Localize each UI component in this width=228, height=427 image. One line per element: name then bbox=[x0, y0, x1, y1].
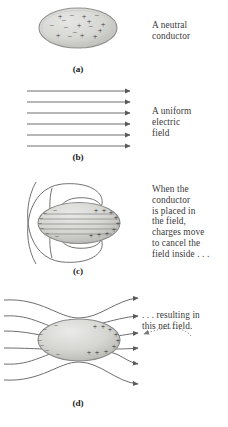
panel-d-caption: . . . resulting in this net field. bbox=[142, 310, 228, 332]
svg-text:+: + bbox=[87, 17, 92, 26]
caption-line: When the bbox=[152, 184, 228, 195]
caption-line: A neutral bbox=[152, 20, 224, 31]
svg-text:+: + bbox=[108, 325, 113, 334]
panel-label-a: (a) bbox=[0, 64, 228, 74]
panel-label-c: (c) bbox=[0, 266, 228, 276]
caption-line: conductor bbox=[152, 31, 224, 42]
svg-text:−: − bbox=[70, 11, 75, 20]
caption-line: charges move bbox=[152, 227, 228, 238]
svg-text:+: + bbox=[102, 206, 107, 215]
svg-text:−: − bbox=[43, 209, 47, 218]
svg-text:−: − bbox=[54, 321, 58, 330]
svg-text:+: + bbox=[116, 336, 121, 345]
caption-line: A uniform bbox=[152, 106, 226, 117]
svg-text:−: − bbox=[95, 11, 100, 20]
svg-text:+: + bbox=[112, 225, 117, 234]
field-line-outer-bottom bbox=[4, 362, 138, 384]
svg-text:+: + bbox=[101, 322, 106, 331]
panel-label-a-text: (a) bbox=[73, 64, 84, 74]
panel-a: + − + − − − + − + + − + + − + − + A neut… bbox=[0, 0, 228, 84]
svg-text:+: + bbox=[87, 348, 92, 357]
panel-label-b: (b) bbox=[0, 152, 228, 162]
panel-d: − − − − − − − + + + + + + + + + bbox=[0, 288, 228, 427]
field-line-outer-top bbox=[4, 298, 138, 318]
svg-text:+: + bbox=[95, 348, 100, 357]
physics-figure-conductor-in-field: + − + − − − + − + + − + + − + − + A neut… bbox=[0, 0, 228, 427]
caption-line: the field, bbox=[152, 216, 228, 227]
caption-line: this net field. bbox=[142, 321, 228, 332]
svg-text:−: − bbox=[73, 28, 78, 37]
caption-line: conductor bbox=[152, 195, 228, 206]
panel-label-d: (d) bbox=[0, 398, 228, 408]
svg-text:+: + bbox=[56, 31, 61, 40]
svg-text:−: − bbox=[56, 350, 60, 359]
caption-line: is placed in bbox=[152, 206, 228, 217]
svg-text:+: + bbox=[105, 229, 110, 238]
caption-line: electric bbox=[152, 117, 226, 128]
svg-text:+: + bbox=[98, 26, 103, 35]
caption-line: field inside . . . bbox=[152, 249, 228, 260]
svg-text:+: + bbox=[89, 231, 94, 240]
svg-text:+: + bbox=[93, 322, 98, 331]
svg-text:−: − bbox=[55, 232, 59, 241]
panel-b: A uniform electric field (b) bbox=[0, 84, 228, 168]
panel-label-b-text: (b) bbox=[72, 152, 83, 162]
panel-a-caption: A neutral conductor bbox=[152, 20, 224, 42]
uniform-field-arrows bbox=[27, 91, 130, 146]
svg-text:−: − bbox=[40, 224, 44, 233]
svg-text:+: + bbox=[80, 31, 85, 40]
svg-text:+: + bbox=[94, 206, 99, 215]
svg-text:+: + bbox=[112, 342, 117, 351]
svg-text:−: − bbox=[45, 229, 49, 238]
panel-label-c-text: (c) bbox=[73, 266, 83, 276]
panel-c-caption: When the conductor is placed in the fiel… bbox=[152, 184, 228, 260]
panel-b-caption: A uniform electric field bbox=[152, 106, 226, 138]
panel-label-d-text: (d) bbox=[72, 398, 83, 408]
caption-line: . . . resulting in bbox=[142, 310, 228, 321]
svg-text:−: − bbox=[50, 21, 55, 30]
svg-text:+: + bbox=[97, 230, 102, 239]
svg-text:−: − bbox=[53, 206, 57, 215]
caption-line: to cancel the bbox=[152, 238, 228, 249]
panel-c: − − − − − − − + + + + + + + + + When the bbox=[0, 172, 228, 276]
svg-text:−: − bbox=[62, 16, 67, 25]
svg-text:+: + bbox=[104, 347, 109, 356]
svg-text:−: − bbox=[45, 346, 49, 355]
svg-text:−: − bbox=[43, 325, 47, 334]
svg-text:−: − bbox=[40, 341, 44, 350]
svg-text:+: + bbox=[116, 219, 121, 228]
svg-text:+: + bbox=[77, 21, 82, 30]
caption-line: field bbox=[152, 128, 226, 139]
